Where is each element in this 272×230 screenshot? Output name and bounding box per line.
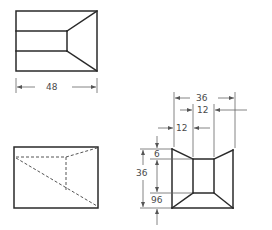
top-view-diagonal-upper	[67, 11, 97, 31]
hidden-line-long-diagonal	[16, 158, 97, 206]
dimension-12-upper: 12	[180, 105, 247, 115]
dimension-label-36-horizontal: 36	[196, 93, 208, 103]
front-view	[14, 147, 98, 208]
dimension-6: 6	[154, 136, 160, 159]
dimension-label-36-vertical: 36	[136, 168, 148, 178]
side-view-inner-rect	[193, 159, 214, 193]
dimension-label-12-upper: 12	[197, 105, 208, 115]
dimension-96: 96	[151, 160, 163, 225]
dimension-12-lower: 12	[158, 123, 210, 133]
technical-drawing: 48 36	[0, 0, 272, 230]
dimension-label-96: 96	[151, 195, 163, 205]
dimension-label-12-lower: 12	[176, 123, 187, 133]
side-view: 36 12 12 6	[136, 92, 247, 225]
dimension-36-horizontal: 36	[175, 93, 234, 103]
dimension-48: 48	[16, 78, 97, 93]
top-view: 48	[16, 11, 97, 93]
dimension-label-48: 48	[46, 82, 58, 92]
hidden-line-upper-diagonal	[66, 148, 97, 157]
dimension-label-6: 6	[154, 149, 160, 159]
top-view-diagonal-lower	[67, 51, 97, 71]
dimension-36-vertical: 36	[136, 150, 148, 207]
